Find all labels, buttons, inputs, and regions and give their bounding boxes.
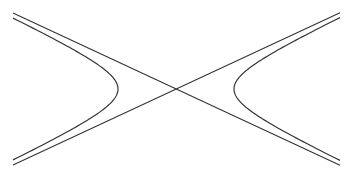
hyperbola-left-branch: [13, 18, 118, 160]
hyperbola-diagram: [0, 0, 351, 179]
hyperbola-right-branch: [234, 18, 340, 161]
